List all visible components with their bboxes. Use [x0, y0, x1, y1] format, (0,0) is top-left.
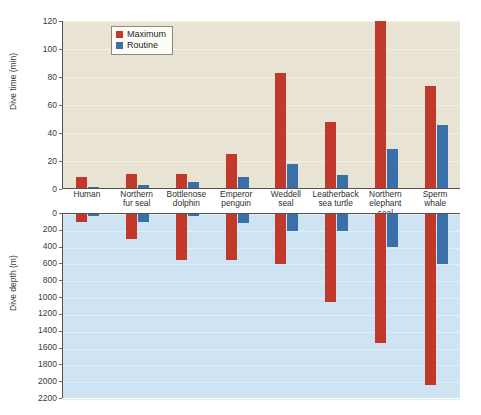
bar-maximum	[325, 214, 336, 302]
bar-maximum	[176, 214, 187, 260]
y-tick-label: 1600	[38, 343, 57, 352]
y-tick-label: 400	[43, 242, 57, 251]
gridline	[63, 248, 460, 249]
y-tick-label: 120	[43, 17, 57, 26]
bar-routine	[188, 214, 199, 216]
gridline	[63, 231, 460, 232]
bar-routine	[437, 125, 448, 188]
bar-maximum	[275, 73, 286, 188]
bar-maximum	[226, 154, 237, 188]
bar-maximum	[226, 214, 237, 260]
legend-label-maximum: Maximum	[127, 30, 166, 40]
gridline	[63, 133, 460, 134]
y-tick-label: 1200	[38, 309, 57, 318]
bar-maximum	[126, 214, 137, 239]
category-label-line: Human	[62, 190, 112, 199]
category-label-line: sea turtle	[311, 199, 361, 208]
gridline	[63, 105, 460, 106]
category-label-line: fur seal	[112, 199, 162, 208]
bar-routine	[88, 187, 99, 189]
bar-routine	[188, 182, 199, 188]
legend-swatch-maximum	[116, 31, 123, 38]
bar-routine	[387, 149, 398, 188]
y-tick-label: 200	[43, 225, 57, 234]
dive-depth-plot-area	[62, 213, 460, 398]
gridline	[63, 161, 460, 162]
y-tick-label: 0	[52, 185, 57, 194]
legend-label-routine: Routine	[127, 41, 158, 51]
legend-item-maximum: Maximum	[116, 30, 166, 40]
bar-routine	[387, 214, 398, 247]
y-tick-label: 20	[48, 157, 57, 166]
gridline	[63, 382, 460, 383]
y-tick-mark	[59, 398, 63, 399]
bar-routine	[337, 214, 348, 231]
gridline	[63, 298, 460, 299]
bar-routine	[287, 214, 298, 231]
gridline	[63, 315, 460, 316]
gridline	[63, 281, 460, 282]
y-tick-label: 800	[43, 276, 57, 285]
bar-maximum	[425, 214, 436, 385]
dive-time-plot-area: Maximum Routine	[62, 21, 460, 189]
bar-routine	[287, 164, 298, 188]
gridline	[63, 332, 460, 333]
bar-maximum	[126, 174, 137, 188]
bar-maximum	[375, 21, 386, 188]
gridline	[63, 214, 460, 215]
y-tick-label: 80	[48, 73, 57, 82]
bar-maximum	[375, 214, 386, 343]
bar-routine	[238, 214, 249, 223]
y-tick-label: 600	[43, 259, 57, 268]
y-tick-label: 1400	[38, 326, 57, 335]
y-tick-label: 100	[43, 45, 57, 54]
chart-legend: Maximum Routine	[111, 26, 173, 55]
bar-maximum	[275, 214, 286, 264]
gridline	[63, 349, 460, 350]
gridline	[63, 365, 460, 366]
bar-routine	[337, 175, 348, 188]
bar-routine	[437, 214, 448, 264]
y-tick-label: 1000	[38, 293, 57, 302]
y-tick-label: 2000	[38, 377, 57, 386]
y-tick-label: 1800	[38, 360, 57, 369]
y-tick-label: 60	[48, 101, 57, 110]
bar-maximum	[425, 86, 436, 188]
dive-time-y-axis-label: Dive time (min)	[6, 98, 20, 108]
y-tick-label: 0	[52, 209, 57, 218]
dive-depth-y-axis-label: Dive depth (m)	[6, 299, 20, 309]
gridline	[63, 264, 460, 265]
gridline	[63, 399, 460, 400]
bar-routine	[238, 177, 249, 188]
category-label-line: dolphin	[162, 199, 212, 208]
y-tick-label: 40	[48, 129, 57, 138]
legend-swatch-routine	[116, 42, 123, 49]
y-tick-label: 2200	[38, 394, 57, 403]
bar-routine	[138, 185, 149, 188]
gridline	[63, 21, 460, 22]
bar-maximum	[176, 174, 187, 188]
bar-maximum	[325, 122, 336, 188]
bar-maximum	[76, 177, 87, 188]
category-label-line: seal	[261, 199, 311, 208]
bar-routine	[138, 214, 149, 222]
gridline	[63, 77, 460, 78]
bar-routine	[88, 214, 99, 216]
bar-maximum	[76, 214, 87, 222]
dive-performance-figure: Dive time (min) 020406080100120 Maximum …	[0, 0, 481, 415]
category-label-line: penguin	[211, 199, 261, 208]
category-label-line: whale	[410, 199, 460, 208]
legend-item-routine: Routine	[116, 41, 166, 51]
